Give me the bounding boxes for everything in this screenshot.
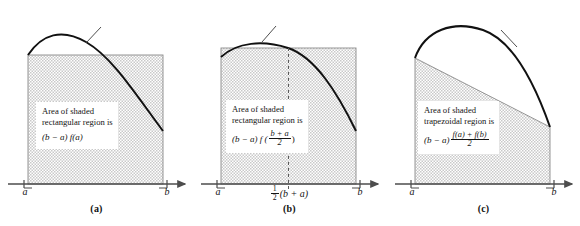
panel-a-left-endpoint-rule: Area of shaded rectangular region is (b …	[0, 0, 193, 226]
callout-b-line1: Area of shaded	[232, 104, 303, 115]
midpoint-denominator: 2	[271, 194, 279, 202]
numerical-integration-figure: Area of shaded rectangular region is (b …	[0, 0, 580, 226]
axis-label-a: a	[405, 186, 419, 197]
curve-label-leader	[86, 27, 101, 43]
formula-b-fraction: b + a2	[269, 130, 291, 148]
callout-a-line2: rectangular region is	[42, 117, 113, 128]
callout-c-formula: (b − a)f(a) + f(b)2	[424, 131, 494, 149]
midpoint-fraction: 12	[271, 185, 279, 202]
panel-b-midpoint-rule: Area of shaded rectangular region is (b …	[193, 0, 386, 226]
axis-label-b: b	[547, 186, 561, 197]
curve-label-leader	[501, 30, 517, 47]
formula-b-lead: (b − a) f (	[232, 134, 268, 144]
panel-a-caption: (a)	[0, 203, 193, 214]
axis-label-midpoint: 12(b + a)	[257, 185, 321, 202]
panel-c-trapezoidal-rule: Area of shaded trapezoidal region is (b …	[387, 0, 580, 226]
callout-a-line1: Area of shaded	[42, 106, 113, 117]
callout-b-line2: rectangular region is	[232, 115, 303, 126]
formula-c-fraction: f(a) + f(b)2	[451, 131, 489, 149]
curve-label-leader	[262, 26, 276, 42]
callout-a: Area of shaded rectangular region is (b …	[36, 102, 118, 149]
axis-label-a: a	[18, 186, 32, 197]
formula-c-lead: (b − a)	[424, 135, 450, 145]
callout-c-line2: trapezoidal region is	[424, 116, 494, 127]
callout-b-formula: (b − a) f (b + a2)	[232, 130, 303, 148]
callout-b: Area of shaded rectangular region is (b …	[226, 100, 308, 153]
axis-label-b: b	[353, 186, 367, 197]
panel-c-caption: (c)	[387, 203, 580, 214]
callout-c-line1: Area of shaded	[424, 105, 494, 116]
callout-a-formula: (b − a) f(a)	[42, 132, 113, 144]
callout-c: Area of shaded trapezoidal region is (b …	[418, 101, 499, 154]
formula-a-lead: (b − a) f(a)	[42, 132, 83, 142]
formula-b-denominator: 2	[269, 139, 291, 148]
formula-b-trail: )	[292, 134, 295, 144]
panel-b-caption: (b)	[193, 203, 386, 214]
axis-label-a: a	[211, 186, 225, 197]
axis-label-b: b	[160, 186, 174, 197]
formula-c-denominator: 2	[451, 140, 489, 149]
midpoint-trail: (b + a)	[280, 188, 308, 199]
